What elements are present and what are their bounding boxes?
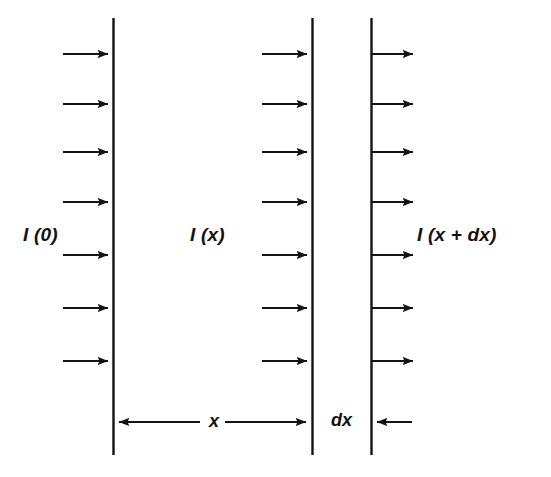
plane-lines <box>114 18 372 455</box>
ray-after-dx-group <box>372 54 413 361</box>
label-intensity-at-x: I (x) <box>190 225 225 244</box>
label-dimension-dx: dx <box>327 411 356 429</box>
absorption-diagram-figure: I (0) I (x) I (x + dx) x dx <box>0 0 551 477</box>
label-intensity-incident: I (0) <box>23 225 58 244</box>
label-intensity-after-slab: I (x + dx) <box>417 225 497 244</box>
label-dimension-x: x <box>205 412 223 430</box>
incident-ray-group <box>63 54 108 361</box>
ray-at-x-group <box>262 54 307 361</box>
